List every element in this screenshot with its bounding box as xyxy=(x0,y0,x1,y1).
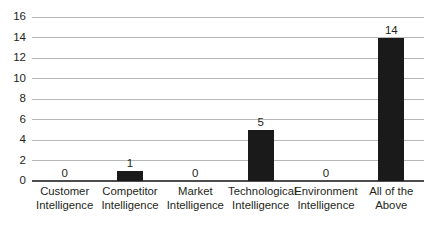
category-label: CustomerIntelligence xyxy=(32,185,97,212)
category-label-line: Environment xyxy=(293,185,358,199)
category-label-line: Intelligence xyxy=(97,199,162,213)
bar[interactable] xyxy=(378,38,404,182)
category-label: TechnologicalIntelligence xyxy=(228,185,293,212)
bar-value-label: 0 xyxy=(323,168,329,180)
bar-value-label: 1 xyxy=(127,158,133,170)
bar-chart: 1614121086420 0105014 CustomerIntelligen… xyxy=(0,0,435,225)
category-label: CompetitorIntelligence xyxy=(97,185,162,212)
bar[interactable] xyxy=(117,171,143,181)
bar-value-label: 0 xyxy=(61,168,67,180)
y-axis-tick-label: 8 xyxy=(0,93,26,105)
category-label-line: Intelligence xyxy=(32,199,97,213)
category-label-line: All of the xyxy=(359,185,424,199)
y-axis-tick-label: 16 xyxy=(0,11,26,23)
bar-value-label: 5 xyxy=(257,117,263,129)
category-label-line: Above xyxy=(359,199,424,213)
category-label-line: Technological xyxy=(228,185,293,199)
category-label-line: Competitor xyxy=(97,185,162,199)
y-axis-tick-label: 14 xyxy=(0,32,26,44)
category-label: EnvironmentIntelligence xyxy=(293,185,358,212)
y-axis-tick-label: 12 xyxy=(0,52,26,64)
bar-value-label: 14 xyxy=(385,25,398,37)
category-label: All of theAbove xyxy=(359,185,424,212)
category-label: MarketIntelligence xyxy=(163,185,228,212)
y-axis-tick-label: 10 xyxy=(0,73,26,85)
y-axis-tick-label: 4 xyxy=(0,134,26,146)
category-label-line: Market xyxy=(163,185,228,199)
bar-value-label: 0 xyxy=(192,168,198,180)
category-label-line: Intelligence xyxy=(163,199,228,213)
y-axis: 1614121086420 xyxy=(0,0,26,225)
category-label-line: Customer xyxy=(32,185,97,199)
category-label-line: Intelligence xyxy=(293,199,358,213)
x-axis-labels: CustomerIntelligenceCompetitorIntelligen… xyxy=(32,185,424,225)
y-axis-tick-label: 0 xyxy=(0,175,26,187)
y-axis-tick-label: 6 xyxy=(0,114,26,126)
bar[interactable] xyxy=(248,130,274,181)
y-axis-tick-label: 2 xyxy=(0,155,26,167)
category-label-line: Intelligence xyxy=(228,199,293,213)
